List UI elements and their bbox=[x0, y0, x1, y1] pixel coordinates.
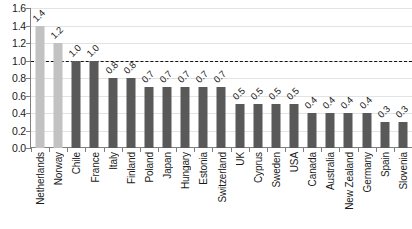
x-axis-category-labels: NetherlandsNorwayChileFranceItalyFinland… bbox=[31, 152, 412, 229]
bar-group[interactable]: 0.8 bbox=[122, 8, 140, 148]
y-tick-label: 1.2 bbox=[12, 37, 26, 49]
bar[interactable] bbox=[217, 87, 226, 148]
bar[interactable] bbox=[54, 43, 63, 148]
y-tick-mark bbox=[26, 96, 31, 97]
bar[interactable] bbox=[290, 104, 299, 148]
bar-group[interactable]: 1.2 bbox=[49, 8, 67, 148]
bar-group[interactable]: 0.5 bbox=[267, 8, 285, 148]
bar-group[interactable]: 0.4 bbox=[358, 8, 376, 148]
bar[interactable] bbox=[271, 104, 280, 148]
bar-value-label: 0.3 bbox=[375, 103, 392, 120]
y-tick-mark bbox=[26, 61, 31, 62]
x-axis-label-japan: Japan bbox=[162, 152, 173, 179]
x-axis-label-poland: Poland bbox=[144, 152, 155, 183]
bar[interactable] bbox=[181, 87, 190, 148]
bar-value-label: 1.4 bbox=[30, 7, 47, 24]
x-axis-label-new-zealand: New Zealand bbox=[344, 152, 355, 210]
bar[interactable] bbox=[380, 122, 389, 148]
x-axis-label-australia: Australia bbox=[325, 152, 336, 190]
bar[interactable] bbox=[163, 87, 172, 148]
y-tick-label: 0.2 bbox=[12, 125, 26, 137]
bar-value-label: 0.5 bbox=[266, 86, 283, 103]
y-tick-label: 1.0 bbox=[12, 55, 26, 67]
bar-group[interactable]: 0.3 bbox=[376, 8, 394, 148]
bar-value-label: 0.4 bbox=[302, 94, 319, 111]
bar[interactable] bbox=[144, 87, 153, 148]
x-axis-label-netherlands: Netherlands bbox=[35, 152, 46, 205]
bar-value-label: 0.7 bbox=[139, 68, 156, 85]
bar[interactable] bbox=[398, 122, 407, 148]
bar-value-label: 0.4 bbox=[339, 94, 356, 111]
x-axis-label-germany: Germany bbox=[362, 152, 373, 192]
bar-group[interactable]: 0.3 bbox=[394, 8, 412, 148]
y-tick-mark bbox=[26, 26, 31, 27]
y-tick-label: 0.0 bbox=[12, 142, 26, 154]
x-axis-label-spain: Spain bbox=[380, 152, 391, 177]
bar[interactable] bbox=[326, 113, 335, 148]
x-axis-label-slovenia: Slovenia bbox=[398, 152, 409, 190]
bar-value-label: 0.7 bbox=[212, 68, 229, 85]
bar-value-label: 0.4 bbox=[357, 94, 374, 111]
bar[interactable] bbox=[90, 61, 99, 149]
x-axis-label-france: France bbox=[90, 152, 101, 183]
bar-value-label: 0.8 bbox=[103, 59, 120, 76]
bar-group[interactable]: 0.7 bbox=[194, 8, 212, 148]
y-tick-mark bbox=[26, 78, 31, 79]
x-axis-label-norway: Norway bbox=[53, 152, 64, 185]
bar[interactable] bbox=[36, 26, 45, 149]
x-axis-label-finland: Finland bbox=[126, 152, 137, 184]
bar-value-label: 0.5 bbox=[248, 86, 265, 103]
bar-value-label: 0.5 bbox=[230, 86, 247, 103]
x-axis-label-hungary: Hungary bbox=[180, 152, 191, 189]
bar[interactable] bbox=[344, 113, 353, 148]
x-axis-label-estonia: Estonia bbox=[198, 152, 209, 185]
y-tick-label: 0.8 bbox=[12, 72, 26, 84]
y-tick-label: 0.4 bbox=[12, 107, 26, 119]
bar[interactable] bbox=[126, 78, 135, 148]
bar-value-label: 0.3 bbox=[393, 103, 410, 120]
bar[interactable] bbox=[235, 104, 244, 148]
bar[interactable] bbox=[108, 78, 117, 148]
bar-group[interactable]: 0.4 bbox=[339, 8, 357, 148]
bar-group[interactable]: 0.4 bbox=[303, 8, 321, 148]
bar-value-label: 1.0 bbox=[85, 42, 102, 59]
bar-group[interactable]: 1.0 bbox=[67, 8, 85, 148]
bar-group[interactable]: 0.4 bbox=[321, 8, 339, 148]
bar[interactable] bbox=[362, 113, 371, 148]
bar[interactable] bbox=[253, 104, 262, 148]
bar-group[interactable]: 0.5 bbox=[231, 8, 249, 148]
bar-group[interactable]: 0.7 bbox=[140, 8, 158, 148]
y-tick-mark bbox=[26, 43, 31, 44]
bar-value-label: 0.7 bbox=[157, 68, 174, 85]
y-tick-label: 1.6 bbox=[12, 2, 26, 14]
x-axis-label-usa: USA bbox=[289, 152, 300, 172]
x-axis-label-uk: UK bbox=[235, 152, 246, 166]
bar-group[interactable]: 0.8 bbox=[104, 8, 122, 148]
bar[interactable] bbox=[199, 87, 208, 148]
y-tick-label: 1.4 bbox=[12, 20, 26, 32]
x-axis-label-italy: Italy bbox=[108, 152, 119, 170]
x-axis-label-cyprus: Cyprus bbox=[253, 152, 264, 183]
x-axis-label-chile: Chile bbox=[71, 152, 82, 174]
x-axis-label-switzerland: Switzerland bbox=[217, 152, 228, 203]
bar-value-label: 0.8 bbox=[121, 59, 138, 76]
bars-container: 1.41.21.01.00.80.80.70.70.70.70.70.50.50… bbox=[31, 8, 412, 148]
bar-group[interactable]: 0.7 bbox=[176, 8, 194, 148]
bar-value-label: 0.5 bbox=[284, 86, 301, 103]
bar[interactable] bbox=[72, 61, 81, 149]
bar-value-label: 1.2 bbox=[48, 24, 65, 41]
bar-group[interactable]: 1.4 bbox=[31, 8, 49, 148]
x-axis-label-canada: Canada bbox=[307, 152, 318, 186]
bar[interactable] bbox=[308, 113, 317, 148]
y-axis-tick-labels: 0.00.20.40.60.81.01.21.41.6 bbox=[0, 0, 26, 148]
bar-group[interactable]: 0.5 bbox=[285, 8, 303, 148]
bar-group[interactable]: 1.0 bbox=[85, 8, 103, 148]
bar-group[interactable]: 0.7 bbox=[212, 8, 230, 148]
bar-chart: 0.00.20.40.60.81.01.21.41.6 1.41.21.01.0… bbox=[0, 0, 412, 229]
y-tick-mark bbox=[26, 113, 31, 114]
y-tick-mark bbox=[26, 8, 31, 9]
bar-group[interactable]: 0.7 bbox=[158, 8, 176, 148]
bar-value-label: 0.7 bbox=[194, 68, 211, 85]
y-tick-label: 0.6 bbox=[12, 90, 26, 102]
bar-group[interactable]: 0.5 bbox=[249, 8, 267, 148]
